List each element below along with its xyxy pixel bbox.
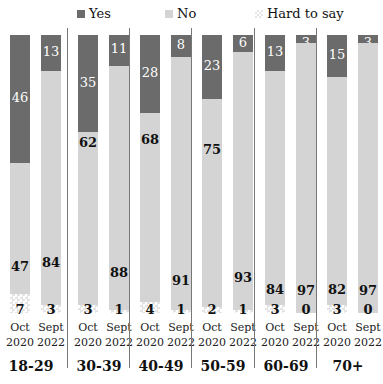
value-label: 35 <box>80 75 97 90</box>
value-label: 97 <box>297 283 315 298</box>
bar-oct-2020: 46477 <box>10 35 30 313</box>
value-label: 0 <box>363 302 372 317</box>
value-label: 0 <box>301 302 310 317</box>
segment-yes: 6 <box>233 35 253 52</box>
segment-hard-to-say: 1 <box>109 310 129 313</box>
bar-sept-2022: 3970 <box>358 35 378 313</box>
segment-hard-to-say: 1 <box>233 310 253 313</box>
period-label-line1: Oct <box>73 320 103 335</box>
segment-hard-to-say: 3 <box>41 305 61 313</box>
period-label: Oct2020 <box>197 320 227 350</box>
value-label: 7 <box>15 302 24 317</box>
age-group-label: 18-29 <box>0 358 62 374</box>
age-group-50-59: 23752Oct20206931Sept202250-59 <box>189 28 251 384</box>
bar-sept-2022: 3970 <box>296 35 316 313</box>
segment-no: 47 <box>10 163 30 294</box>
value-label: 84 <box>266 282 284 297</box>
period-label: Oct2020 <box>135 320 165 350</box>
age-group-label: 70+ <box>317 358 379 374</box>
value-label: 3 <box>332 302 341 317</box>
age-group-label: 30-39 <box>68 358 130 374</box>
age-group-label: 40-49 <box>130 358 192 374</box>
bar-oct-2020: 13843 <box>265 35 285 313</box>
value-label: 1 <box>176 302 185 317</box>
value-label: 82 <box>328 282 346 297</box>
age-group-18-29: 46477Oct202013843Sept202218-29 <box>0 28 62 384</box>
bar-oct-2020: 23752 <box>202 35 222 313</box>
value-label: 3 <box>83 302 92 317</box>
period-label-line1: Sept <box>353 320 383 335</box>
segment-yes: 11 <box>109 35 129 66</box>
bar-sept-2022: 13843 <box>41 35 61 313</box>
period-label-line2: 2020 <box>197 335 227 350</box>
period-label: Oct2020 <box>260 320 290 350</box>
age-group-60-69: 13843Oct20203970Sept202260-69 <box>252 28 314 384</box>
value-label: 46 <box>12 90 29 105</box>
segment-yes: 35 <box>78 35 98 132</box>
age-group-30-39: 35623Oct202011881Sept202230-39 <box>65 28 127 384</box>
segment-hard-to-say: 7 <box>10 294 30 313</box>
value-label: 13 <box>267 44 284 59</box>
value-label: 75 <box>203 142 221 157</box>
segment-no: 97 <box>296 43 316 313</box>
segment-no: 75 <box>202 99 222 308</box>
value-label: 68 <box>141 132 159 147</box>
segment-hard-to-say: 3 <box>78 305 98 313</box>
segment-yes: 3 <box>358 35 378 43</box>
period-label: Oct2020 <box>5 320 35 350</box>
period-label: Oct2020 <box>73 320 103 350</box>
value-label: 97 <box>359 283 377 298</box>
value-label: 84 <box>42 255 60 270</box>
period-label-line2: 2022 <box>353 335 383 350</box>
age-group-label: 50-59 <box>192 358 254 374</box>
segment-yes: 46 <box>10 35 30 163</box>
value-label: 88 <box>110 265 128 280</box>
period-label-line1: Oct <box>322 320 352 335</box>
bar-oct-2020: 35623 <box>78 35 98 313</box>
segment-yes: 3 <box>296 35 316 43</box>
segment-no: 88 <box>109 66 129 311</box>
period-label-line1: Oct <box>135 320 165 335</box>
period-label-line1: Oct <box>260 320 290 335</box>
segment-no: 82 <box>327 77 347 305</box>
value-label: 1 <box>114 302 123 317</box>
value-label: 1 <box>238 302 247 317</box>
bar-oct-2020: 15823 <box>327 35 347 313</box>
value-label: 23 <box>204 58 221 73</box>
bar-sept-2022: 6931 <box>233 35 253 313</box>
segment-no: 84 <box>41 71 61 305</box>
value-label: 3 <box>46 302 55 317</box>
value-label: 13 <box>43 44 60 59</box>
segment-no: 84 <box>265 71 285 305</box>
period-label-line2: 2020 <box>260 335 290 350</box>
age-group-label: 60-69 <box>255 358 317 374</box>
segment-no: 68 <box>140 113 160 302</box>
value-label: 2 <box>207 302 216 317</box>
value-label: 91 <box>172 273 190 288</box>
age-group-40-49: 28684Oct20208911Sept202240-49 <box>127 28 189 384</box>
period-label: Sept2022 <box>353 320 383 350</box>
period-label-line1: Sept <box>36 320 66 335</box>
segment-yes: 23 <box>202 35 222 99</box>
value-label: 47 <box>11 259 29 274</box>
value-label: 8 <box>177 37 185 52</box>
bar-oct-2020: 28684 <box>140 35 160 313</box>
period-label: Oct2020 <box>322 320 352 350</box>
segment-hard-to-say: 2 <box>202 307 222 313</box>
segment-no: 93 <box>233 52 253 311</box>
bar-sept-2022: 8911 <box>171 35 191 313</box>
period-label-line2: 2020 <box>5 335 35 350</box>
segment-yes: 15 <box>327 35 347 77</box>
value-label: 28 <box>142 65 159 80</box>
segment-hard-to-say: 3 <box>265 305 285 313</box>
segment-yes: 8 <box>171 35 191 57</box>
value-label: 4 <box>145 302 154 317</box>
segment-no: 97 <box>358 43 378 313</box>
period-label-line1: Oct <box>5 320 35 335</box>
segment-hard-to-say: 4 <box>140 302 160 313</box>
age-group-70plus: 15823Oct20203970Sept202270+ <box>314 28 376 384</box>
value-label: 6 <box>239 35 247 50</box>
value-label: 93 <box>234 270 252 285</box>
period-label-line2: 2020 <box>322 335 352 350</box>
